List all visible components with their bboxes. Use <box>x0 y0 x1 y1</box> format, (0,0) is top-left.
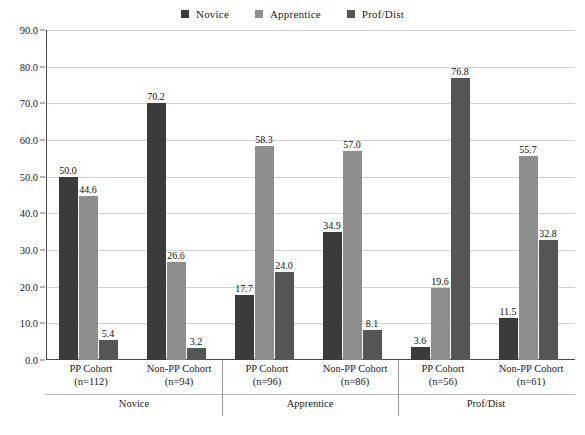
bar[interactable]: 19.6 <box>431 288 450 360</box>
cohort-name: PP Cohort <box>421 363 464 374</box>
y-axis-tick-mark <box>40 140 45 141</box>
bar-value-label: 17.7 <box>235 284 253 294</box>
chart-legend: NoviceApprenticeProf/Dist <box>0 6 585 22</box>
bar-value-label: 19.6 <box>431 277 449 287</box>
cohort-sample-size: (n=56) <box>399 375 487 388</box>
cohort-name: PP Cohort <box>69 363 112 374</box>
bar-value-label: 11.5 <box>499 307 516 317</box>
y-axis-tick-label: 20.0 <box>20 281 38 292</box>
y-axis-tick-mark <box>40 30 45 31</box>
bar-cluster: 3.619.676.8 <box>399 30 487 360</box>
bar-value-label: 26.6 <box>167 251 185 261</box>
y-axis-tick-mark <box>40 360 45 361</box>
bar-value-label: 76.8 <box>451 67 469 77</box>
bar-value-label: 8.1 <box>366 319 379 329</box>
bar[interactable]: 58.3 <box>255 146 274 360</box>
bar[interactable]: 76.8 <box>451 78 470 360</box>
bar[interactable]: 70.2 <box>147 103 166 360</box>
bar[interactable]: 55.7 <box>519 156 538 360</box>
bar[interactable]: 3.6 <box>411 347 430 360</box>
bar-value-label: 44.6 <box>79 185 97 195</box>
cohort-sample-size: (n=61) <box>487 375 575 388</box>
x-axis-cohort-label: Non-PP Cohort(n=86) <box>311 362 399 388</box>
bar[interactable]: 17.7 <box>235 295 254 360</box>
x-axis-group-separator <box>222 360 223 394</box>
y-axis-tick-mark <box>40 250 45 251</box>
x-axis-group-separator <box>398 394 399 416</box>
bar-cluster: 11.555.732.8 <box>487 30 575 360</box>
bar-value-label: 58.3 <box>255 135 273 145</box>
cohort-sample-size: (n=96) <box>223 375 311 388</box>
bar[interactable]: 50.0 <box>59 177 78 360</box>
bar[interactable]: 44.6 <box>79 196 98 360</box>
y-axis-tick-label: 0.0 <box>25 355 38 366</box>
x-axis-cohort-label: PP Cohort(n=96) <box>223 362 311 388</box>
x-axis-cohort-label: Non-PP Cohort(n=61) <box>487 362 575 388</box>
bar[interactable]: 24.0 <box>275 272 294 360</box>
y-axis-tick-label: 70.0 <box>20 98 38 109</box>
x-axis-cohort-label: Non-PP Cohort(n=94) <box>135 362 223 388</box>
y-axis-tick-label: 50.0 <box>20 171 38 182</box>
y-axis-tick-mark <box>40 103 45 104</box>
y-axis-tick-mark <box>40 176 45 177</box>
bar[interactable]: 34.9 <box>323 232 342 360</box>
legend-swatch-icon <box>181 10 189 18</box>
y-axis: 0.010.020.030.040.050.060.070.080.090.0 <box>0 30 44 360</box>
x-axis-group-label: Novice <box>46 398 222 409</box>
cohort-name: Non-PP Cohort <box>323 363 388 374</box>
y-axis-tick-label: 10.0 <box>20 318 38 329</box>
cohort-sample-size: (n=94) <box>135 375 223 388</box>
y-axis-tick-label: 80.0 <box>20 61 38 72</box>
bar[interactable]: 8.1 <box>363 330 382 360</box>
cohort-name: PP Cohort <box>245 363 288 374</box>
bar-cluster: 17.758.324.0 <box>223 30 311 360</box>
cohort-sample-size: (n=112) <box>47 375 135 388</box>
legend-swatch-icon <box>255 10 263 18</box>
legend-label: Novice <box>196 8 229 20</box>
x-axis-group-label: Prof/Dist <box>398 398 574 409</box>
cohort-sample-size: (n=86) <box>311 375 399 388</box>
x-axis-group-separator <box>222 394 223 416</box>
legend-entry-prof-dist[interactable]: Prof/Dist <box>347 8 404 20</box>
bar[interactable]: 57.0 <box>343 151 362 360</box>
x-axis-cohort-row: PP Cohort(n=112)Non-PP Cohort(n=94)PP Co… <box>46 360 575 392</box>
x-axis-cohort-label: PP Cohort(n=112) <box>47 362 135 388</box>
legend-label: Apprentice <box>270 8 321 20</box>
cohort-name: Non-PP Cohort <box>147 363 212 374</box>
y-axis-tick-mark <box>40 286 45 287</box>
bar[interactable]: 32.8 <box>539 240 558 360</box>
x-axis-group-label: Apprentice <box>222 398 398 409</box>
bar-value-label: 3.2 <box>190 337 203 347</box>
bar-value-label: 55.7 <box>519 145 537 155</box>
cohort-name: Non-PP Cohort <box>499 363 564 374</box>
bar-chart: NoviceApprenticeProf/Dist 0.010.020.030.… <box>0 0 585 435</box>
legend-swatch-icon <box>347 10 355 18</box>
bar[interactable]: 5.4 <box>99 340 118 360</box>
x-axis-group-separator <box>398 360 399 394</box>
legend-entry-apprentice[interactable]: Apprentice <box>255 8 321 20</box>
y-axis-tick-mark <box>40 323 45 324</box>
bar[interactable]: 11.5 <box>499 318 518 360</box>
bar[interactable]: 26.6 <box>167 262 186 360</box>
bar-value-label: 70.2 <box>147 92 165 102</box>
bar-cluster: 70.226.63.2 <box>135 30 223 360</box>
y-axis-tick-mark <box>40 66 45 67</box>
y-axis-tick-mark <box>40 213 45 214</box>
bar-cluster: 34.957.08.1 <box>311 30 399 360</box>
bar-value-label: 57.0 <box>343 140 361 150</box>
bars-layer: 50.044.65.470.226.63.217.758.324.034.957… <box>47 30 575 360</box>
legend-label: Prof/Dist <box>362 8 404 20</box>
x-axis: PP Cohort(n=112)Non-PP Cohort(n=94)PP Co… <box>46 360 575 422</box>
y-axis-tick-label: 40.0 <box>20 208 38 219</box>
bar-value-label: 32.8 <box>539 229 557 239</box>
legend-entry-novice[interactable]: Novice <box>181 8 229 20</box>
x-axis-cohort-label: PP Cohort(n=56) <box>399 362 487 388</box>
bar-value-label: 34.9 <box>323 221 341 231</box>
y-axis-tick-label: 90.0 <box>20 25 38 36</box>
bar[interactable]: 3.2 <box>187 348 206 360</box>
y-axis-tick-label: 60.0 <box>20 135 38 146</box>
bar-value-label: 3.6 <box>414 336 427 346</box>
y-axis-tick-label: 30.0 <box>20 245 38 256</box>
bar-value-label: 50.0 <box>59 166 77 176</box>
x-axis-group-row: NoviceApprenticeProf/Dist <box>46 394 575 417</box>
